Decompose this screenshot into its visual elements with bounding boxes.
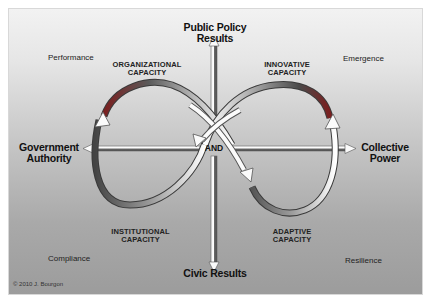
adaptive-capacity-label: ADAPTIVE CAPACITY bbox=[262, 228, 322, 244]
innovative-line2: CAPACITY bbox=[252, 69, 322, 77]
quadrant-label-compliance: Compliance bbox=[48, 255, 90, 263]
quadrant-label-performance: Performance bbox=[48, 54, 94, 62]
institutional-line2: CAPACITY bbox=[103, 236, 178, 244]
copyright-text: © 2010 J. Bourgon bbox=[13, 281, 63, 287]
organizational-capacity-label: ORGANIZATIONAL CAPACITY bbox=[102, 61, 192, 77]
axis-label-top-line2: Results bbox=[175, 33, 255, 44]
axis-label-top: Public Policy Results bbox=[175, 22, 255, 44]
vertical-axis bbox=[209, 36, 219, 272]
organizational-line2: CAPACITY bbox=[102, 69, 192, 77]
adaptive-line2: CAPACITY bbox=[262, 236, 322, 244]
institutional-capacity-label: INSTITUTIONAL CAPACITY bbox=[103, 228, 178, 244]
institutional-arc bbox=[95, 120, 205, 205]
innovative-capacity-label: INNOVATIVE CAPACITY bbox=[252, 61, 322, 77]
quadrant-label-emergence: Emergence bbox=[343, 55, 384, 63]
center-and-label: AND bbox=[202, 144, 226, 153]
axis-label-bottom: Civic Results bbox=[175, 268, 255, 279]
axis-label-right: Collective Power bbox=[355, 142, 415, 164]
axis-label-left: Government Authority bbox=[14, 142, 84, 164]
axis-label-left-line2: Authority bbox=[14, 153, 84, 164]
quadrant-label-resilience: Resilience bbox=[345, 257, 382, 265]
axis-label-right-line2: Power bbox=[355, 153, 415, 164]
